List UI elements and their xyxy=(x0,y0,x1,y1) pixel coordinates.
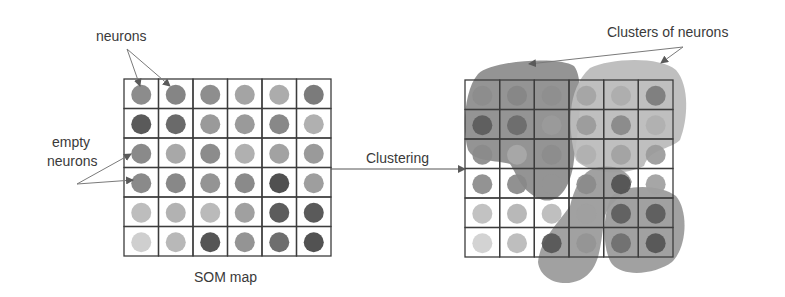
neuron-dot xyxy=(611,174,631,194)
neuron-dot xyxy=(542,86,562,106)
neuron-dot xyxy=(304,85,324,105)
neuron-dot xyxy=(200,144,220,164)
neuron-dot xyxy=(235,232,255,252)
neuron-dot xyxy=(646,145,666,165)
clustering-label: Clustering xyxy=(366,151,429,165)
neuron-dot xyxy=(269,203,289,223)
neuron-dot xyxy=(611,233,631,253)
neuron-dot xyxy=(472,233,492,253)
neuron-dot xyxy=(166,203,186,223)
neuron-dot xyxy=(542,145,562,165)
neuron-dot xyxy=(576,115,596,135)
neuron-dot xyxy=(646,204,666,224)
neuron-dot xyxy=(472,145,492,165)
neuron-dot xyxy=(507,233,527,253)
neuron-dot xyxy=(507,86,527,106)
neuron-dot xyxy=(611,115,631,135)
neuron-dot xyxy=(507,204,527,224)
neuron-dot xyxy=(304,173,324,193)
neuron-dot xyxy=(131,114,151,134)
neuron-dot xyxy=(646,86,666,106)
neuron-dot xyxy=(542,204,562,224)
neuron-dot xyxy=(166,114,186,134)
empty-neurons-label-line1: empty xyxy=(52,135,90,149)
neuron-dot xyxy=(304,203,324,223)
neuron-dot xyxy=(542,174,562,194)
neuron-dot xyxy=(576,86,596,106)
diagram-canvas xyxy=(0,0,785,297)
neuron-dot xyxy=(235,144,255,164)
neuron-dot xyxy=(576,145,596,165)
neuron-dot xyxy=(269,144,289,164)
neuron-dot xyxy=(646,115,666,135)
clusters-of-neurons-label: Clusters of neurons xyxy=(607,25,728,39)
neuron-dot xyxy=(472,115,492,135)
neuron-dot xyxy=(235,203,255,223)
neuron-dot xyxy=(507,115,527,135)
som-clustering-diagram: neurons empty neurons Clustering Cluster… xyxy=(0,0,785,297)
neuron-dot xyxy=(576,204,596,224)
neuron-dot xyxy=(131,144,151,164)
neuron-dot xyxy=(269,232,289,252)
som-map-grid xyxy=(124,79,331,256)
neuron-dot xyxy=(131,203,151,223)
neuron-dot xyxy=(200,203,220,223)
neuron-dot xyxy=(269,85,289,105)
neuron-dot xyxy=(542,233,562,253)
empty-neurons-label-line2: neurons xyxy=(47,154,98,168)
neuron-dot xyxy=(611,145,631,165)
neuron-dot xyxy=(269,173,289,193)
som-map-label: SOM map xyxy=(194,270,257,284)
neuron-dot xyxy=(646,174,666,194)
neuron-dot xyxy=(611,204,631,224)
neuron-dot xyxy=(646,233,666,253)
neuron-dot xyxy=(131,85,151,105)
neuron-dot xyxy=(166,232,186,252)
neuron-dot xyxy=(472,174,492,194)
neurons-label: neurons xyxy=(96,29,147,43)
neuron-dot xyxy=(269,114,289,134)
neuron-dot xyxy=(235,173,255,193)
neuron-dot xyxy=(200,114,220,134)
neuron-dot xyxy=(200,173,220,193)
neuron-dot xyxy=(166,144,186,164)
neuron-dot xyxy=(507,174,527,194)
neuron-dot xyxy=(472,86,492,106)
neuron-dot xyxy=(235,85,255,105)
neuron-dot xyxy=(166,173,186,193)
neuron-dot xyxy=(576,233,596,253)
neuron-dot xyxy=(131,173,151,193)
clusters-arrow-1 xyxy=(529,47,683,64)
neuron-dot xyxy=(576,174,596,194)
neuron-dot xyxy=(200,232,220,252)
neuron-dot xyxy=(200,85,220,105)
neuron-dot xyxy=(472,204,492,224)
neuron-dot xyxy=(542,115,562,135)
neuron-dot xyxy=(131,232,151,252)
neuron-dot xyxy=(304,144,324,164)
neuron-dot xyxy=(166,85,186,105)
neuron-dot xyxy=(235,114,255,134)
neuron-dot xyxy=(611,86,631,106)
neuron-dot xyxy=(507,145,527,165)
neuron-dot xyxy=(304,114,324,134)
neuron-dot xyxy=(304,232,324,252)
